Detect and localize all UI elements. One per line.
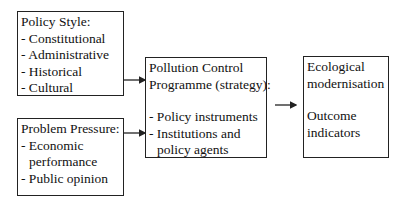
connector-arrows [0,0,403,207]
